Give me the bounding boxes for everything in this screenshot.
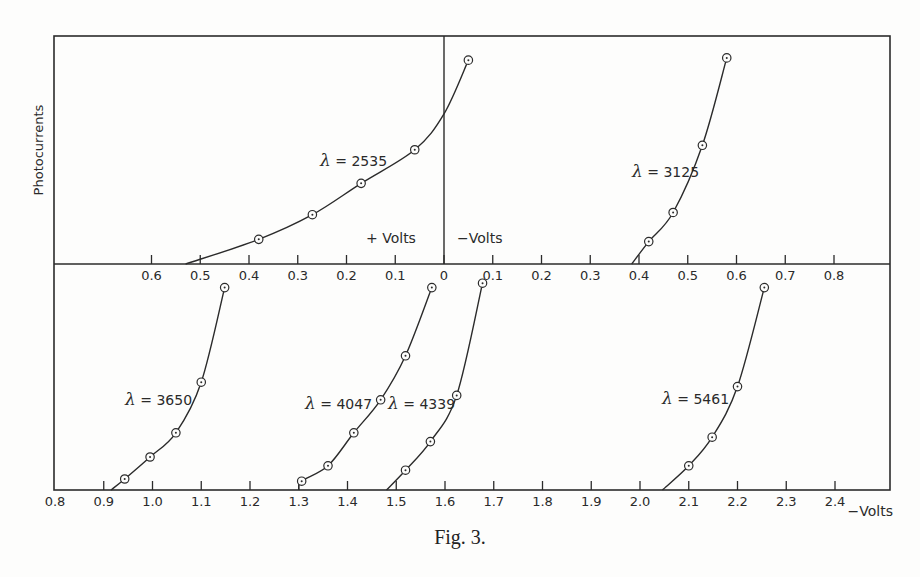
- upper-tick-label: 0.5: [190, 268, 211, 283]
- curve-4047: [299, 288, 432, 490]
- upper-tick-label: 0.3: [580, 268, 601, 283]
- upper-tick-label: 0.8: [824, 268, 845, 283]
- frame-border: [54, 36, 890, 490]
- data-point-dot: [258, 238, 260, 240]
- lower-tick-label: 1.0: [142, 494, 163, 509]
- upper-tick-label: 0.2: [531, 268, 552, 283]
- lower-tick-label: 0.8: [45, 494, 66, 509]
- data-point-dot: [648, 241, 650, 243]
- data-point-dot: [429, 441, 431, 443]
- curve-4339: [387, 283, 483, 490]
- lower-tick-label: 2.1: [678, 494, 699, 509]
- data-point-dot: [701, 144, 703, 146]
- data-point-dot: [456, 394, 458, 396]
- upper-tick-label: 0.7: [775, 268, 796, 283]
- data-point-dot: [327, 465, 329, 467]
- lower-tick-label: 1.5: [386, 494, 407, 509]
- curve-3125: [632, 58, 727, 264]
- minus-volts-label: −Volts: [457, 230, 502, 246]
- data-point-dot: [311, 214, 313, 216]
- data-point-dot: [175, 432, 177, 434]
- data-point-dot: [405, 355, 407, 357]
- upper-tick-label: 0.1: [385, 268, 406, 283]
- plus-volts-label: + Volts: [366, 230, 416, 246]
- data-point-dot: [482, 282, 484, 284]
- upper-tick-label: 0.4: [629, 268, 650, 283]
- curve-label-3125: λ = 3125: [631, 161, 699, 181]
- lower-tick-label: 1.1: [191, 494, 212, 509]
- lower-tick-label: 1.9: [581, 494, 602, 509]
- lower-tick-label: 1.8: [532, 494, 553, 509]
- curve-label-3650: λ = 3650: [124, 389, 192, 409]
- data-point-dot: [726, 57, 728, 59]
- y-axis-label: Photocurrents: [31, 104, 46, 195]
- lower-tick-label: 2.2: [727, 494, 748, 509]
- figure-caption: Fig. 3.: [0, 526, 920, 549]
- data-point-dot: [224, 287, 226, 289]
- data-point-dot: [414, 149, 416, 151]
- lower-tick-label: 2.3: [776, 494, 797, 509]
- data-point-dot: [737, 386, 739, 388]
- photocurrent-chart: Photocurrents0.60.50.40.30.20.100.10.20.…: [0, 0, 920, 577]
- curve-label-4047: λ = 4047: [304, 393, 372, 413]
- data-point-dot: [200, 381, 202, 383]
- upper-tick-label: 0.6: [726, 268, 747, 283]
- lower-tick-label: 2.4: [825, 494, 846, 509]
- data-point-dot: [711, 436, 713, 438]
- upper-tick-label: 0: [440, 268, 448, 283]
- data-point-dot: [431, 287, 433, 289]
- plot-frame: [54, 36, 890, 490]
- lower-tick-label: 0.9: [93, 494, 114, 509]
- curve-label-4339: λ = 4339: [387, 393, 455, 413]
- curve-label-5461: λ = 5461: [661, 388, 729, 408]
- lower-tick-label: 1.4: [337, 494, 358, 509]
- data-point-dot: [124, 478, 126, 480]
- data-point-dot: [380, 399, 382, 401]
- axes: Photocurrents0.60.50.40.30.20.100.10.20.…: [31, 104, 893, 519]
- upper-tick-label: 0.2: [336, 268, 357, 283]
- data-point-dot: [467, 59, 469, 61]
- data-point-dot: [360, 182, 362, 184]
- curve-5461: [662, 288, 764, 490]
- lower-volts-label: −Volts: [848, 503, 893, 519]
- upper-tick-label: 0.6: [141, 268, 162, 283]
- upper-tick-label: 0.5: [677, 268, 698, 283]
- lower-tick-label: 1.3: [288, 494, 309, 509]
- data-point-dot: [149, 456, 151, 458]
- data-point-dot: [763, 287, 765, 289]
- lower-tick-label: 2.0: [630, 494, 651, 509]
- lower-tick-label: 1.2: [240, 494, 261, 509]
- lower-tick-label: 1.6: [435, 494, 456, 509]
- data-point-dot: [405, 469, 407, 471]
- upper-tick-label: 0.4: [239, 268, 260, 283]
- data-point-dot: [672, 211, 674, 213]
- upper-tick-label: 0.3: [287, 268, 308, 283]
- curve-label-2535: λ = 2535: [319, 150, 387, 170]
- data-point-dot: [688, 465, 690, 467]
- data-point-dot: [301, 480, 303, 482]
- lower-tick-label: 1.7: [483, 494, 504, 509]
- data-point-dot: [353, 432, 355, 434]
